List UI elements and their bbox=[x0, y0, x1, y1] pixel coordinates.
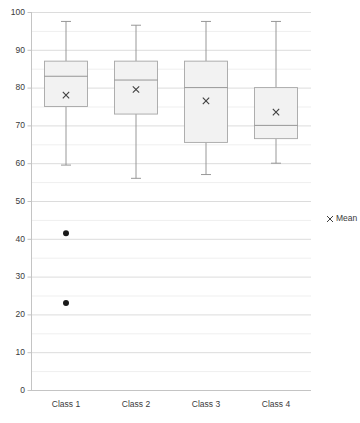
legend: Mean bbox=[327, 213, 358, 223]
y-tick-label: 70 bbox=[16, 120, 26, 130]
y-tick-label: 40 bbox=[16, 234, 26, 244]
box-plot-1 bbox=[45, 21, 88, 165]
y-tick-label: 80 bbox=[16, 82, 26, 92]
y-tick-label: 10 bbox=[16, 347, 26, 357]
y-tick-label: 100 bbox=[11, 7, 25, 17]
outlier-point bbox=[63, 230, 69, 236]
box-plot-4 bbox=[255, 21, 298, 163]
legend-item-1: Mean bbox=[327, 213, 358, 223]
y-tick-label: 60 bbox=[16, 158, 26, 168]
legend-label: Mean bbox=[336, 213, 358, 223]
x-tick-label: Class 4 bbox=[262, 399, 291, 409]
x-tick-label: Class 3 bbox=[192, 399, 221, 409]
chart-title bbox=[0, 0, 360, 4]
interquartile-box bbox=[255, 88, 298, 139]
interquartile-box bbox=[185, 61, 228, 142]
box-plots-group bbox=[45, 21, 298, 178]
y-tick-label: 0 bbox=[20, 385, 25, 395]
box-plot-2 bbox=[115, 25, 158, 178]
box-plot-3 bbox=[185, 21, 228, 174]
y-tick-label: 50 bbox=[16, 196, 26, 206]
outlier-point bbox=[63, 300, 69, 306]
plot-canvas: 0102030405060708090100 Class 1Class 2Cla… bbox=[0, 0, 360, 423]
y-axis-tick-labels: 0102030405060708090100 bbox=[11, 7, 31, 395]
y-tick-label: 30 bbox=[16, 271, 26, 281]
interquartile-box bbox=[115, 61, 158, 114]
outliers-group bbox=[63, 230, 69, 306]
y-tick-label: 20 bbox=[16, 309, 26, 319]
box-plot-chart: 0102030405060708090100 Class 1Class 2Cla… bbox=[0, 0, 360, 423]
x-tick-label: Class 1 bbox=[52, 399, 81, 409]
x-axis-tick-labels: Class 1Class 2Class 3Class 4 bbox=[52, 399, 291, 409]
y-tick-label: 90 bbox=[16, 45, 26, 55]
interquartile-box bbox=[45, 61, 88, 106]
x-tick-label: Class 2 bbox=[122, 399, 151, 409]
